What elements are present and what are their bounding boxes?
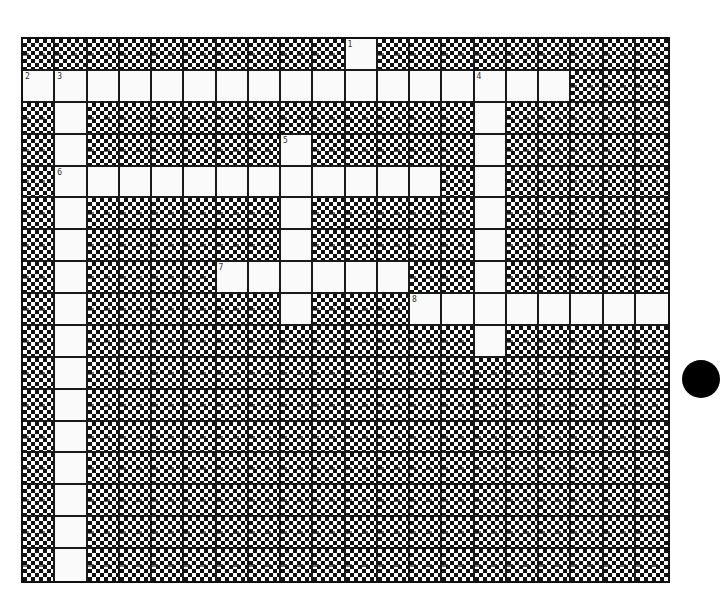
crossword-cell[interactable]	[475, 230, 507, 262]
crossword-cell[interactable]	[55, 198, 87, 230]
crossword-cell[interactable]	[152, 167, 184, 199]
crossword-cell[interactable]	[475, 198, 507, 230]
crossword-block	[152, 358, 184, 390]
crossword-cell[interactable]	[442, 71, 474, 103]
crossword-cell[interactable]	[475, 167, 507, 199]
crossword-cell[interactable]	[55, 103, 87, 135]
crossword-cell[interactable]	[281, 262, 313, 294]
crossword-block	[410, 135, 442, 167]
crossword-cell[interactable]	[184, 167, 216, 199]
crossword-block	[378, 326, 410, 358]
crossword-block	[442, 453, 474, 485]
crossword-block	[281, 39, 313, 71]
crossword-cell[interactable]	[281, 167, 313, 199]
crossword-block	[378, 230, 410, 262]
crossword-block	[249, 230, 281, 262]
crossword-cell[interactable]	[249, 262, 281, 294]
crossword-block	[281, 453, 313, 485]
crossword-cell[interactable]	[313, 262, 345, 294]
crossword-block	[313, 198, 345, 230]
crossword-cell[interactable]	[55, 422, 87, 454]
crossword-block	[442, 549, 474, 581]
crossword-cell[interactable]	[55, 485, 87, 517]
crossword-cell[interactable]	[152, 71, 184, 103]
crossword-cell[interactable]	[249, 71, 281, 103]
crossword-cell[interactable]	[281, 230, 313, 262]
crossword-cell[interactable]	[55, 230, 87, 262]
crossword-cell[interactable]: 4	[475, 71, 507, 103]
crossword-cell[interactable]	[281, 198, 313, 230]
crossword-cell[interactable]	[604, 294, 636, 326]
crossword-cell[interactable]	[313, 71, 345, 103]
crossword-cell[interactable]	[475, 135, 507, 167]
crossword-cell[interactable]	[88, 167, 120, 199]
crossword-block	[313, 103, 345, 135]
crossword-cell[interactable]	[346, 262, 378, 294]
crossword-cell[interactable]	[346, 167, 378, 199]
crossword-cell[interactable]	[55, 549, 87, 581]
crossword-cell[interactable]	[378, 167, 410, 199]
crossword-cell[interactable]: 6	[55, 167, 87, 199]
crossword-cell[interactable]	[55, 135, 87, 167]
crossword-block	[23, 103, 55, 135]
crossword-cell[interactable]	[475, 326, 507, 358]
crossword-cell[interactable]	[539, 294, 571, 326]
crossword-cell[interactable]	[120, 167, 152, 199]
crossword-cell[interactable]	[378, 262, 410, 294]
crossword-cell[interactable]	[55, 262, 87, 294]
crossword-cell[interactable]	[55, 358, 87, 390]
crossword-cell[interactable]	[507, 71, 539, 103]
crossword-cell[interactable]: 3	[55, 71, 87, 103]
crossword-cell[interactable]: 8	[410, 294, 442, 326]
crossword-cell[interactable]	[539, 71, 571, 103]
crossword-block	[120, 294, 152, 326]
crossword-block	[313, 358, 345, 390]
crossword-cell[interactable]	[313, 167, 345, 199]
crossword-cell[interactable]	[55, 453, 87, 485]
crossword-block	[217, 390, 249, 422]
crossword-block	[475, 422, 507, 454]
crossword-cell[interactable]	[475, 103, 507, 135]
crossword-block	[378, 135, 410, 167]
crossword-cell[interactable]	[281, 71, 313, 103]
crossword-cell[interactable]	[346, 71, 378, 103]
crossword-cell[interactable]	[184, 71, 216, 103]
crossword-cell[interactable]	[55, 326, 87, 358]
crossword-block	[410, 549, 442, 581]
crossword-block	[636, 390, 668, 422]
crossword-cell[interactable]	[55, 294, 87, 326]
crossword-cell[interactable]	[281, 294, 313, 326]
crossword-block	[604, 262, 636, 294]
crossword-cell[interactable]	[636, 294, 668, 326]
crossword-block	[88, 262, 120, 294]
crossword-cell[interactable]	[55, 390, 87, 422]
crossword-block	[507, 39, 539, 71]
crossword-block	[346, 358, 378, 390]
crossword-block	[442, 422, 474, 454]
crossword-cell[interactable]	[507, 294, 539, 326]
crossword-cell[interactable]	[217, 71, 249, 103]
crossword-cell[interactable]	[475, 294, 507, 326]
crossword-cell[interactable]: 7	[217, 262, 249, 294]
crossword-cell[interactable]: 2	[23, 71, 55, 103]
crossword-cell[interactable]	[410, 167, 442, 199]
crossword-cell[interactable]	[88, 71, 120, 103]
crossword-block	[571, 71, 603, 103]
crossword-cell[interactable]	[120, 71, 152, 103]
crossword-block	[249, 358, 281, 390]
crossword-block	[88, 198, 120, 230]
crossword-cell[interactable]	[55, 517, 87, 549]
crossword-block	[378, 549, 410, 581]
crossword-cell[interactable]	[249, 167, 281, 199]
crossword-cell[interactable]	[410, 71, 442, 103]
crossword-cell[interactable]	[442, 294, 474, 326]
crossword-block	[152, 326, 184, 358]
crossword-cell[interactable]	[571, 294, 603, 326]
crossword-cell[interactable]	[217, 167, 249, 199]
crossword-block	[346, 453, 378, 485]
crossword-cell[interactable]	[378, 71, 410, 103]
crossword-block	[120, 230, 152, 262]
crossword-cell[interactable]: 1	[346, 39, 378, 71]
crossword-cell[interactable]: 5	[281, 135, 313, 167]
crossword-cell[interactable]	[475, 262, 507, 294]
